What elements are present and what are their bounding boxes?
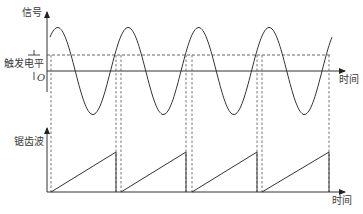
trigger-level-marker bbox=[28, 50, 40, 55]
signal-axis-label: 信号 bbox=[22, 7, 42, 19]
top-time-axis-label: 时间 bbox=[339, 74, 359, 86]
sawtooth-wave bbox=[51, 152, 329, 192]
trigger-level-label: 触发电平 bbox=[4, 58, 44, 70]
bottom-time-axis-label: 时间 bbox=[332, 195, 352, 207]
origin-label: O bbox=[37, 72, 45, 84]
sawtooth-axis-label: 锯齿波 bbox=[14, 136, 44, 148]
diagram-canvas bbox=[0, 0, 363, 214]
trigger-projection-lines bbox=[51, 55, 329, 192]
